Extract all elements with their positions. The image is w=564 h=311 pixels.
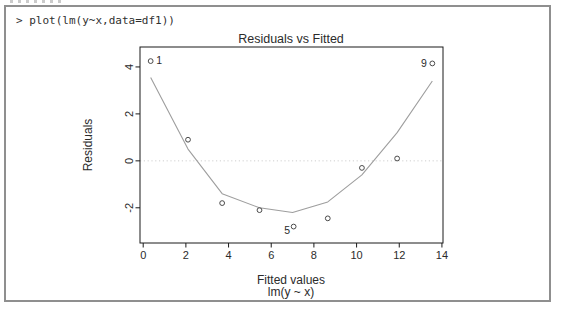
- data-point: [220, 201, 225, 206]
- x-tick-label: 10: [350, 249, 362, 261]
- x-tick-label: 0: [140, 249, 146, 261]
- smooth-line-path: [151, 78, 433, 213]
- x-tick-label: 4: [225, 249, 231, 261]
- y-tick-label: 0: [123, 158, 135, 164]
- y-tick-label: -2: [123, 203, 135, 213]
- data-point: [148, 59, 153, 64]
- data-point: [325, 216, 330, 221]
- x-axis-sublabel: lm(y ~ x): [268, 285, 314, 299]
- point-label: 5: [284, 224, 290, 236]
- data-point: [291, 224, 296, 229]
- chart-title: Residuals vs Fitted: [238, 32, 344, 46]
- x-tick-label: 8: [311, 249, 317, 261]
- y-axis-ticks: -2024: [123, 64, 140, 213]
- data-point: [360, 165, 365, 170]
- x-tick-label: 14: [436, 249, 448, 261]
- y-tick-label: 2: [123, 111, 135, 117]
- point-label: 1: [156, 54, 162, 66]
- lowess-smooth-line: [151, 78, 433, 213]
- data-points: 159: [148, 54, 434, 235]
- x-tick-label: 2: [183, 249, 189, 261]
- data-point: [257, 208, 262, 213]
- y-axis-label: Residuals: [81, 119, 95, 172]
- data-point: [186, 137, 191, 142]
- x-axis-ticks: 02468101214: [140, 243, 448, 261]
- x-tick-label: 12: [393, 249, 405, 261]
- data-point: [395, 156, 400, 161]
- residuals-vs-fitted-chart: 159 02468101214 -2024 Residuals vs Fitte…: [0, 0, 564, 311]
- y-tick-label: 4: [123, 64, 135, 70]
- data-point: [430, 61, 435, 66]
- x-tick-label: 6: [268, 249, 274, 261]
- point-label: 9: [421, 57, 427, 69]
